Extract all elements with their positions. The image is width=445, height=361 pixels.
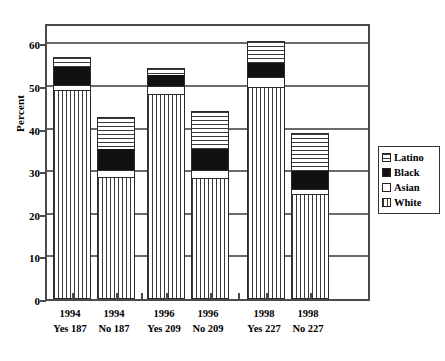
segment-latino bbox=[54, 58, 90, 67]
segment-black bbox=[248, 63, 284, 78]
legend-item-white[interactable]: White bbox=[382, 195, 436, 210]
segment-latino bbox=[192, 112, 228, 150]
x-axis-label-5: 1998No 227 bbox=[268, 306, 348, 336]
segment-white bbox=[192, 179, 228, 299]
bar-1998-yes-227 bbox=[247, 41, 285, 299]
segment-black bbox=[192, 149, 228, 170]
gridline-60 bbox=[47, 42, 368, 44]
y-tick-label-30: 30 bbox=[0, 167, 40, 179]
segment-asian bbox=[148, 87, 184, 95]
segment-asian bbox=[98, 171, 134, 178]
x-tick-mark-2 bbox=[166, 293, 168, 299]
segment-white bbox=[248, 88, 284, 299]
segment-white bbox=[292, 195, 328, 299]
x-label-year: 1998 bbox=[268, 306, 348, 321]
segment-black bbox=[292, 171, 328, 190]
x-tick-mark-1 bbox=[116, 293, 118, 299]
legend-swatch-white-icon bbox=[382, 198, 391, 207]
x-tick-mark-5 bbox=[310, 293, 312, 299]
segment-latino bbox=[98, 118, 134, 150]
stacked-bar-chart: Percent 0102030405060 1994Yes 1871994No … bbox=[0, 0, 445, 361]
x-tick-mark-4 bbox=[266, 293, 268, 299]
legend-label-latino: Latino bbox=[394, 152, 424, 163]
y-axis-title: Percent bbox=[14, 62, 26, 132]
x-tick-mark-3 bbox=[210, 293, 212, 299]
bar-1996-yes-209 bbox=[147, 68, 185, 299]
segment-white bbox=[54, 91, 90, 299]
legend-swatch-latino-icon bbox=[382, 153, 391, 162]
legend-label-black: Black bbox=[394, 167, 420, 178]
legend-item-asian[interactable]: Asian bbox=[382, 180, 436, 195]
segment-black bbox=[54, 67, 90, 86]
plot-area bbox=[45, 24, 370, 301]
segment-black bbox=[98, 149, 134, 170]
segment-latino bbox=[248, 42, 284, 64]
y-tick-label-40: 40 bbox=[0, 125, 40, 137]
plot-inner bbox=[47, 26, 368, 299]
legend-label-white: White bbox=[394, 197, 421, 208]
x-tick-mark-0 bbox=[72, 293, 74, 299]
y-tick-label-50: 50 bbox=[0, 82, 40, 94]
segment-white bbox=[98, 178, 134, 299]
y-tick-label-20: 20 bbox=[0, 210, 40, 222]
legend-label-asian: Asian bbox=[394, 182, 420, 193]
segment-black bbox=[148, 75, 184, 87]
segment-asian bbox=[248, 78, 284, 88]
legend: LatinoBlackAsianWhite bbox=[378, 146, 440, 214]
bar-1996-no-209 bbox=[191, 111, 229, 300]
segment-asian bbox=[192, 171, 228, 179]
legend-swatch-asian-icon bbox=[382, 183, 391, 192]
legend-swatch-black-icon bbox=[382, 168, 391, 177]
legend-item-latino[interactable]: Latino bbox=[382, 150, 436, 165]
y-tick-label-60: 60 bbox=[0, 39, 40, 51]
y-tick-label-10: 10 bbox=[0, 252, 40, 264]
legend-item-black[interactable]: Black bbox=[382, 165, 436, 180]
x-label-vote: No 227 bbox=[268, 321, 348, 336]
x-tick-mark-group-gap-1 bbox=[238, 293, 240, 299]
bar-1994-yes-187 bbox=[53, 57, 91, 299]
segment-latino bbox=[292, 134, 328, 171]
segment-white bbox=[148, 95, 184, 299]
x-tick-mark-group-gap-0 bbox=[141, 293, 143, 299]
bar-1994-no-187 bbox=[97, 117, 135, 299]
gridline-50 bbox=[47, 85, 368, 87]
bar-1998-no-227 bbox=[291, 133, 329, 299]
